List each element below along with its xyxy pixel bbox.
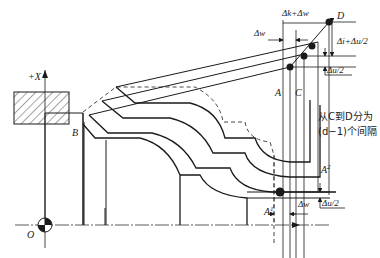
origin-label: O [27, 229, 34, 240]
svg-text:Δi+Δu/2: Δi+Δu/2 [336, 36, 368, 46]
finished-contour-dashed [83, 87, 274, 225]
annotation-line2: (d−1)个间隔 [318, 125, 377, 137]
point-label-A: A [274, 87, 282, 98]
dim-bottom-du: Δu/2 [320, 183, 345, 208]
svg-text:Δu/2: Δu/2 [321, 198, 339, 208]
point-label-B: B [72, 127, 78, 138]
origin-marker: O [27, 218, 52, 240]
dim-right-upper: Δi+Δu/2 [332, 22, 368, 56]
point-label-D: D [336, 10, 345, 21]
chuck-hatched [14, 92, 69, 124]
toolpath-diagram: +X O B [0, 0, 380, 258]
point-label-A2: A2 [320, 163, 331, 175]
svg-text:Δk+Δw: Δk+Δw [281, 8, 309, 18]
point-mid1 [309, 43, 316, 50]
dim-top-span: Δk+Δw [281, 8, 329, 23]
annotation-line1: 从C到D分为 [318, 111, 373, 122]
dim-top-left: Δw [253, 28, 308, 40]
point-A1 [276, 188, 285, 197]
axis-arrow-icon [42, 70, 48, 78]
axis-label-x: +X [28, 71, 42, 82]
svg-text:Δw: Δw [297, 199, 309, 209]
point-A1-group: A1 [247, 188, 330, 218]
svg-text:Δw: Δw [253, 28, 265, 38]
point-label-A1: A1 [263, 205, 274, 217]
workpiece: B [45, 113, 105, 225]
svg-text:Δu/2: Δu/2 [326, 65, 344, 75]
